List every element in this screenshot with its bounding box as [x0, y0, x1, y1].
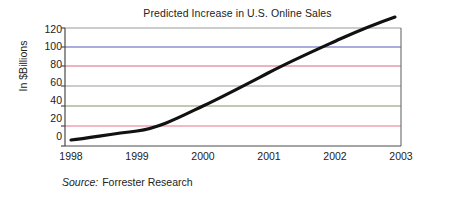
source-label: Source: [62, 176, 98, 188]
plot-background [65, 28, 401, 146]
source-value: Forrester Research [102, 176, 192, 188]
chart-figure: Predicted Increase in U.S. Online Sales … [0, 0, 475, 206]
source-caption: Source:Forrester Research [62, 176, 193, 188]
